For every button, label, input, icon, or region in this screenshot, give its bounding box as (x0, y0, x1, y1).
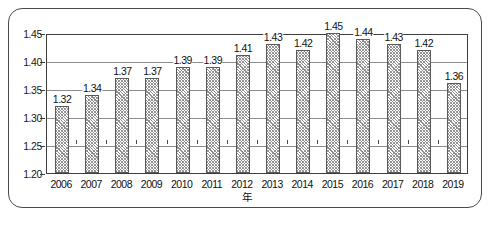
y-axis-tick-label: 1.40 (2, 57, 42, 68)
bar-value-label: 1.42 (293, 38, 312, 49)
x-axis-tick-mark (227, 140, 228, 144)
bar[interactable] (326, 33, 340, 173)
bar-value-label: 1.39 (173, 55, 192, 66)
bar[interactable] (85, 95, 99, 173)
bar-slot: 1.42 (288, 34, 318, 173)
y-axis-tick-label: 1.30 (2, 113, 42, 124)
bar[interactable] (236, 55, 250, 173)
x-axis-tick-mark (257, 140, 258, 144)
bar-slot: 1.36 (439, 34, 469, 173)
bar[interactable] (417, 50, 431, 173)
bar[interactable] (266, 44, 280, 173)
x-axis-title: 年 (0, 192, 493, 203)
bar-slot: 1.37 (107, 34, 137, 173)
y-axis-tick-label: 1.25 (2, 141, 42, 152)
bar[interactable] (55, 106, 69, 173)
bar-slot: 1.43 (258, 34, 288, 173)
bar[interactable] (296, 50, 310, 173)
x-axis-tick-mark (347, 140, 348, 144)
x-axis-tick-mark (76, 140, 77, 144)
bar-slot: 1.43 (379, 34, 409, 173)
bar-value-label: 1.39 (203, 55, 222, 66)
bar-value-label: 1.36 (444, 71, 463, 82)
x-axis-tick-mark (378, 140, 379, 144)
bar-value-label: 1.37 (143, 66, 162, 77)
x-axis-tick-mark (287, 140, 288, 144)
x-axis-tick-mark (408, 140, 409, 144)
x-axis-tick-mark (136, 140, 137, 144)
plot-area: 1.321.341.371.371.391.391.411.431.421.45… (46, 34, 468, 174)
bar-value-label: 1.42 (414, 38, 433, 49)
y-axis-tick-mark (40, 174, 45, 175)
bar-value-label: 1.45 (324, 21, 343, 32)
bar[interactable] (145, 78, 159, 173)
bar[interactable] (447, 83, 461, 173)
bar-value-label: 1.43 (263, 32, 282, 43)
bar-value-label: 1.44 (354, 27, 373, 38)
bar-slot: 1.37 (137, 34, 167, 173)
bar-value-label: 1.43 (384, 32, 403, 43)
y-axis-tick-label: 1.20 (2, 169, 42, 180)
y-axis-tick-label: 1.35 (2, 85, 42, 96)
bar[interactable] (387, 44, 401, 173)
y-axis-tick-mark (40, 146, 45, 147)
x-axis-tick-label: 2019 (433, 179, 473, 190)
bar-slot: 1.41 (228, 34, 258, 173)
bar[interactable] (206, 67, 220, 173)
y-axis-tick-label: 1.45 (2, 29, 42, 40)
bar-slot: 1.45 (318, 34, 348, 173)
bar-value-label: 1.41 (233, 43, 252, 54)
y-axis-tick-mark (40, 34, 45, 35)
bar-chart: 1.451.401.351.301.251.20 1.321.341.371.3… (0, 0, 493, 225)
bar-slot: 1.44 (348, 34, 378, 173)
bar[interactable] (356, 39, 370, 173)
x-axis-tick-mark (438, 140, 439, 144)
bar-value-label: 1.32 (52, 94, 71, 105)
x-axis-tick-mark (106, 140, 107, 144)
y-axis-tick-mark (40, 90, 45, 91)
bar-slot: 1.42 (409, 34, 439, 173)
bar-value-label: 1.37 (113, 66, 132, 77)
x-axis-tick-mark (167, 140, 168, 144)
bar-slot: 1.32 (47, 34, 77, 173)
x-axis-tick-mark (317, 140, 318, 144)
bar[interactable] (176, 67, 190, 173)
bar-value-label: 1.34 (82, 83, 101, 94)
bar-slot: 1.39 (198, 34, 228, 173)
y-axis-tick-mark (40, 62, 45, 63)
bar-slot: 1.39 (168, 34, 198, 173)
bar[interactable] (115, 78, 129, 173)
y-axis-tick-mark (40, 118, 45, 119)
x-axis-tick-mark (197, 140, 198, 144)
bar-slot: 1.34 (77, 34, 107, 173)
